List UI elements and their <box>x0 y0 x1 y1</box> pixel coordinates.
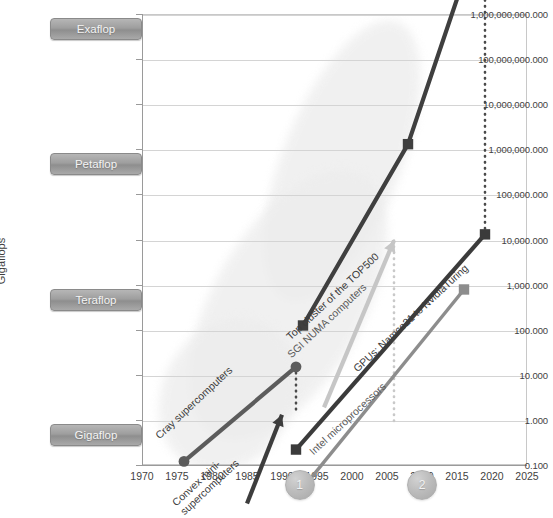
y-axis-tick-label: 10.000 <box>413 369 553 380</box>
x-axis-tick-label: 2015 <box>445 470 468 482</box>
y-axis-tick-label: 100,000,000.000 <box>413 54 553 65</box>
y-axis-tick-mark <box>136 465 142 466</box>
y-axis-tick-mark <box>136 420 142 421</box>
y-axis-tick-label: 1.000 <box>413 414 553 425</box>
y-axis-tick-mark <box>136 285 142 286</box>
y-axis-tick-label: 100,000.000 <box>413 189 553 200</box>
y-axis-tick-label: 1,000,000,000.000 <box>413 9 553 20</box>
y-axis-tick-label: 0.100 <box>413 460 553 471</box>
y-axis-tick-mark <box>136 59 142 60</box>
chart-root: 1,000,000,000.000100,000,000.00010,000,0… <box>0 0 553 518</box>
y-axis-tick-mark <box>136 14 142 15</box>
x-axis-tick-label: 1975 <box>165 470 188 482</box>
y-axis-tick-mark <box>136 330 142 331</box>
scale-badge-teraflop: Teraflop <box>50 289 142 311</box>
y-axis-tick-label: 10,000.000 <box>413 234 553 245</box>
annotation-badge-2: 2 <box>407 470 437 500</box>
y-axis-line <box>142 14 143 465</box>
scale-badge-exaflop: Exaflop <box>50 18 142 40</box>
x-axis-tick-label: 2005 <box>375 470 398 482</box>
y-axis-tick-mark <box>136 149 142 150</box>
y-axis-tick-mark <box>136 240 142 241</box>
y-axis-tick-label: 10,000,000.000 <box>413 99 553 110</box>
x-axis-tick-label: 1970 <box>130 470 153 482</box>
scale-badge-petaflop: Petaflop <box>50 153 142 175</box>
y-axis-title: Gigaflops <box>0 238 7 284</box>
y-axis-tick-mark <box>136 375 142 376</box>
x-axis-tick-label: 2020 <box>480 470 503 482</box>
x-axis-tick-label: 2000 <box>340 470 363 482</box>
annotation-badge-1: 1 <box>285 470 315 500</box>
scale-badge-gigaflop: Gigaflop <box>50 424 142 446</box>
x-axis-tick-label: 2025 <box>515 470 538 482</box>
y-axis-tick-label: 1,000,000.000 <box>413 144 553 155</box>
y-axis-tick-mark <box>136 104 142 105</box>
y-axis-tick-label: 100.000 <box>413 324 553 335</box>
x-axis-tick-label: 1985 <box>235 470 258 482</box>
y-axis-tick-mark <box>136 194 142 195</box>
